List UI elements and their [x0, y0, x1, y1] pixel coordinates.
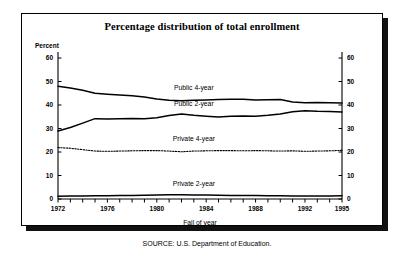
- y-tick-label-right: 60: [347, 54, 355, 61]
- series-label: Public 4-year: [174, 84, 214, 92]
- y-tick-label-left: 10: [46, 172, 54, 179]
- series-line: [58, 148, 342, 152]
- series-line: [58, 195, 342, 196]
- line-chart-plot: 0010102020303040405050606019721976198019…: [22, 14, 384, 227]
- x-tick-label: 1988: [248, 205, 263, 212]
- y-tick-label-right: 20: [347, 148, 355, 155]
- y-tick-label-left: 30: [46, 125, 54, 132]
- y-tick-label-right: 40: [347, 101, 355, 108]
- x-tick-label: 1976: [100, 205, 115, 212]
- y-tick-label-right: 30: [347, 125, 355, 132]
- y-tick-label-left: 0: [49, 195, 53, 202]
- y-tick-label-right: 10: [347, 172, 355, 179]
- series-line: [58, 111, 342, 131]
- x-tick-label: 1980: [150, 205, 165, 212]
- series-label: Public 2-year: [174, 100, 214, 108]
- figure-container: Percentage distribution of total enrollm…: [0, 0, 414, 265]
- figure-frame: Percentage distribution of total enrollm…: [21, 13, 383, 226]
- series-label: Private 2-year: [173, 180, 216, 188]
- x-tick-label: 1992: [298, 205, 313, 212]
- y-tick-label-right: 50: [347, 78, 355, 85]
- x-tick-label: 1984: [199, 205, 214, 212]
- x-axis-title: Fall of year: [183, 219, 217, 227]
- series-label: Private 4-year: [173, 135, 216, 143]
- x-tick-label: 1995: [335, 205, 350, 212]
- x-tick-label: 1972: [51, 205, 66, 212]
- y-tick-label-left: 60: [46, 54, 54, 61]
- y-tick-label-right: 0: [347, 195, 351, 202]
- y-tick-label-left: 50: [46, 78, 54, 85]
- y-tick-label-left: 20: [46, 148, 54, 155]
- y-tick-label-left: 40: [46, 101, 54, 108]
- source-note: SOURCE: U.S. Department of Education.: [0, 240, 414, 247]
